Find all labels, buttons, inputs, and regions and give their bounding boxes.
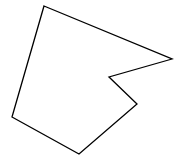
concave-polygon-shape (12, 6, 172, 154)
diagram-canvas (0, 0, 185, 162)
